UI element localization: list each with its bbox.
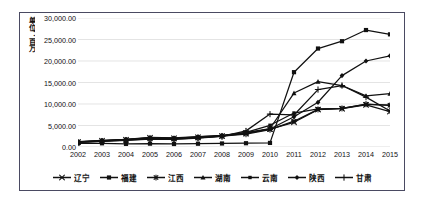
data-point-marker <box>196 142 200 146</box>
figure-root: 单位：百万 0.005,000.0010,000.0015,000.0020,0… <box>0 0 423 203</box>
data-point-marker <box>364 58 369 63</box>
data-point-marker <box>340 107 343 110</box>
legend-marker-icon <box>240 173 260 182</box>
legend-item-甘肃[interactable]: 甘肃 <box>334 172 372 183</box>
data-point-marker <box>341 174 346 179</box>
data-point-marker <box>153 174 158 179</box>
legend-label: 陕西 <box>309 172 325 183</box>
y-tick-label: 20,000.00 <box>44 57 76 66</box>
legend-label: 江西 <box>168 172 184 183</box>
legend-marker-icon <box>99 173 119 182</box>
x-tick-label: 2015 <box>382 150 398 159</box>
legend-item-辽宁[interactable]: 辽宁 <box>52 172 90 183</box>
y-axis-tick-labels: 0.005,000.0010,000.0015,000.0020,000.002… <box>30 18 76 147</box>
x-tick-label: 2006 <box>166 150 182 159</box>
legend-marker-icon <box>193 173 213 182</box>
legend-marker-icon <box>287 173 307 182</box>
series-云南 <box>78 103 390 144</box>
data-point-marker <box>316 107 319 110</box>
legend-item-江西[interactable]: 江西 <box>146 172 184 183</box>
x-tick-label: 2003 <box>94 150 110 159</box>
x-axis-tick-labels: 2002200320042005200620072008200920102011… <box>78 150 390 162</box>
data-point-marker <box>388 32 390 36</box>
data-point-marker <box>364 28 368 32</box>
data-point-marker <box>340 39 344 43</box>
legend-item-陕西[interactable]: 陕西 <box>287 172 325 183</box>
x-tick-label: 2002 <box>70 150 86 159</box>
data-point-marker <box>316 46 320 50</box>
data-point-marker <box>248 175 251 178</box>
series-陕西 <box>78 53 390 144</box>
series-line <box>78 56 390 142</box>
data-point-marker <box>244 141 248 145</box>
y-tick-label: 10,000.00 <box>44 100 76 109</box>
x-tick-label: 2012 <box>310 150 326 159</box>
legend-item-云南[interactable]: 云南 <box>240 172 278 183</box>
legend-item-湖南[interactable]: 湖南 <box>193 172 231 183</box>
legend-label: 云南 <box>262 172 278 183</box>
x-tick-label: 2008 <box>214 150 230 159</box>
legend-marker-icon <box>334 173 354 182</box>
data-point-marker <box>364 103 367 106</box>
x-tick-label: 2004 <box>118 150 134 159</box>
legend-marker-icon <box>52 173 72 182</box>
data-point-marker <box>388 103 390 106</box>
y-tick-label: 25,000.00 <box>44 35 76 44</box>
chart-legend: 辽宁福建江西湖南云南陕西甘肃 <box>30 170 394 184</box>
legend-item-福建[interactable]: 福建 <box>99 172 137 183</box>
legend-label: 福建 <box>121 172 137 183</box>
legend-label: 甘肃 <box>356 172 372 183</box>
series-甘肃 <box>78 83 390 145</box>
data-point-marker <box>388 53 390 58</box>
y-tick-label: 30,000.00 <box>44 14 76 23</box>
x-tick-label: 2013 <box>334 150 350 159</box>
data-point-marker <box>220 141 224 145</box>
plot-area <box>78 18 390 147</box>
series-canvas <box>78 18 390 147</box>
data-point-marker <box>172 142 176 146</box>
data-point-marker <box>107 175 111 179</box>
series-line <box>78 86 390 143</box>
series-line <box>78 82 390 142</box>
data-point-marker <box>295 174 300 179</box>
x-tick-label: 2014 <box>358 150 374 159</box>
y-tick-label: 5,000.00 <box>48 121 76 130</box>
x-tick-label: 2010 <box>262 150 278 159</box>
data-point-marker <box>292 70 296 74</box>
data-point-marker <box>268 141 272 145</box>
legend-label: 辽宁 <box>74 172 90 183</box>
legend-label: 湖南 <box>215 172 231 183</box>
x-tick-label: 2011 <box>286 150 301 159</box>
x-tick-label: 2005 <box>142 150 158 159</box>
x-tick-label: 2007 <box>190 150 206 159</box>
y-tick-label: 15,000.00 <box>44 78 76 87</box>
x-tick-label: 2009 <box>238 150 254 159</box>
legend-marker-icon <box>146 173 166 182</box>
data-point-marker <box>291 119 296 124</box>
